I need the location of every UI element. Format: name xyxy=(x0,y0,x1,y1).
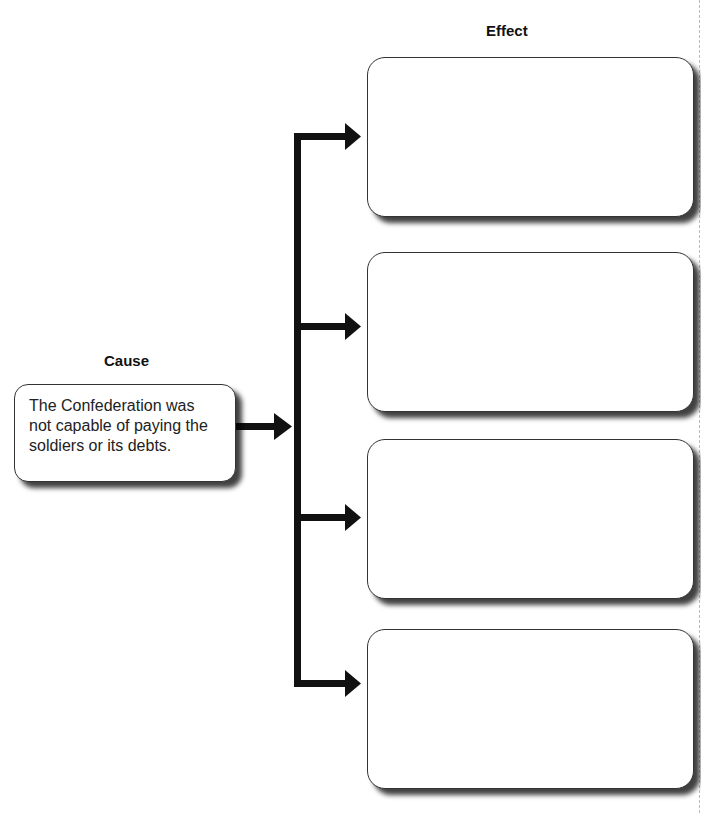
branch-4-arrow-icon xyxy=(345,670,361,697)
effect-box-2[interactable] xyxy=(367,252,694,412)
branch-3-shaft xyxy=(294,514,346,521)
branch-3-arrow-icon xyxy=(345,504,361,531)
trunk-line xyxy=(294,133,301,687)
branch-4-shaft xyxy=(294,680,346,687)
cause-arrow-shaft xyxy=(236,423,276,430)
cause-text: The Confederation was not capable of pay… xyxy=(29,397,208,454)
effect-box-1[interactable] xyxy=(367,57,694,217)
branch-1-shaft xyxy=(294,133,346,140)
cause-box: The Confederation was not capable of pay… xyxy=(14,384,236,482)
branch-2-shaft xyxy=(294,323,346,330)
branch-2-arrow-icon xyxy=(345,313,361,340)
effect-box-3[interactable] xyxy=(367,439,694,599)
effect-box-4[interactable] xyxy=(367,629,694,789)
branch-1-arrow-icon xyxy=(345,123,361,150)
cause-arrow-head-icon xyxy=(274,413,292,440)
